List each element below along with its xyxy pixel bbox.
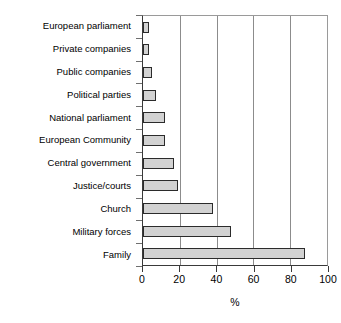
bar-row bbox=[143, 220, 327, 243]
bar bbox=[143, 135, 165, 146]
category-label-cell: Family bbox=[0, 243, 136, 266]
category-label-cell: European Community bbox=[0, 129, 136, 152]
x-axis-tick bbox=[216, 266, 217, 272]
category-label: Central government bbox=[48, 158, 131, 168]
bar bbox=[143, 44, 149, 55]
bar bbox=[143, 180, 178, 191]
bar-row bbox=[143, 84, 327, 107]
bar bbox=[143, 67, 152, 78]
category-label: Family bbox=[103, 250, 131, 260]
x-axis-tick-label: 0 bbox=[139, 273, 145, 285]
category-label: Church bbox=[100, 204, 131, 214]
x-axis-tick bbox=[254, 266, 255, 272]
bar-row bbox=[143, 16, 327, 39]
plot-area bbox=[142, 15, 328, 266]
x-axis-tick bbox=[179, 266, 180, 272]
x-axis-tick-label: 20 bbox=[173, 273, 185, 285]
category-label: European Community bbox=[39, 135, 131, 145]
bar bbox=[143, 203, 213, 214]
category-label-cell: Church bbox=[0, 198, 136, 221]
x-axis-tick-label: 80 bbox=[285, 273, 297, 285]
bars-layer bbox=[143, 16, 327, 265]
category-label: Military forces bbox=[72, 227, 131, 237]
bar bbox=[143, 226, 231, 237]
x-axis-tick-marks bbox=[142, 266, 328, 272]
bar bbox=[143, 22, 149, 33]
horizontal-bar-chart: European parliamentPrivate companiesPubl… bbox=[0, 0, 341, 323]
x-axis-tick-label: 100 bbox=[319, 273, 337, 285]
category-label: European parliament bbox=[43, 21, 131, 31]
x-axis-tick bbox=[328, 266, 329, 272]
bar bbox=[143, 248, 305, 259]
category-label-cell: Private companies bbox=[0, 38, 136, 61]
bar-row bbox=[143, 61, 327, 84]
category-label-cell: Justice/courts bbox=[0, 175, 136, 198]
bar-row bbox=[143, 174, 327, 197]
category-label: Private companies bbox=[53, 44, 131, 54]
category-label: Political parties bbox=[67, 90, 131, 100]
category-label-cell: Political parties bbox=[0, 83, 136, 106]
category-label-cell: European parliament bbox=[0, 15, 136, 38]
category-label: Justice/courts bbox=[73, 181, 131, 191]
bar-row bbox=[143, 152, 327, 175]
category-label: National parliament bbox=[49, 113, 131, 123]
category-label: Public companies bbox=[57, 67, 131, 77]
bar bbox=[143, 158, 174, 169]
category-label-cell: Public companies bbox=[0, 61, 136, 84]
category-label-cell: Central government bbox=[0, 152, 136, 175]
bar-row bbox=[143, 129, 327, 152]
x-axis-tick-label: 60 bbox=[248, 273, 260, 285]
bar-row bbox=[143, 107, 327, 130]
bar-row bbox=[143, 197, 327, 220]
bar-row bbox=[143, 242, 327, 265]
bar-row bbox=[143, 39, 327, 62]
x-axis-tick bbox=[291, 266, 292, 272]
category-label-cell: National parliament bbox=[0, 106, 136, 129]
category-axis-labels: European parliamentPrivate companiesPubl… bbox=[0, 15, 136, 266]
category-label-cell: Military forces bbox=[0, 220, 136, 243]
bar bbox=[143, 112, 165, 123]
x-axis-tick bbox=[142, 266, 143, 272]
x-axis-tick-label: 40 bbox=[211, 273, 223, 285]
x-axis-tick-labels: 020406080100 bbox=[142, 273, 328, 287]
bar bbox=[143, 90, 156, 101]
x-axis-title: % bbox=[142, 296, 328, 308]
